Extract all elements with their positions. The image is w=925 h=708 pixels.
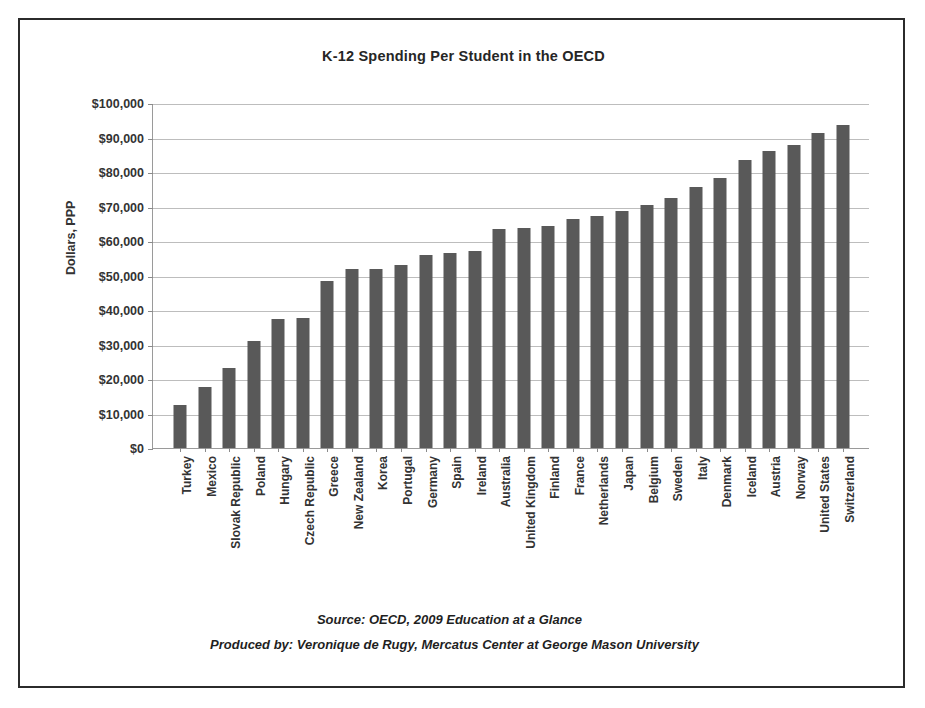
- x-axis-tick: [548, 448, 549, 452]
- x-axis-tick: [597, 448, 598, 452]
- x-axis-tick: [573, 448, 574, 452]
- bar-group: Turkey: [168, 104, 193, 448]
- bar-group: Portugal: [389, 104, 414, 448]
- x-axis-tick-label: Switzerland: [843, 456, 857, 523]
- bar: [419, 255, 432, 448]
- x-axis-tick-label: Korea: [376, 456, 390, 490]
- x-axis-tick-label: Slovak Republic: [229, 456, 243, 549]
- bar: [296, 318, 309, 448]
- bar: [665, 198, 678, 448]
- bar-group: Germany: [413, 104, 438, 448]
- x-axis-tick-label: Turkey: [180, 456, 194, 494]
- bar: [223, 368, 236, 448]
- x-axis-tick-label: Germany: [426, 456, 440, 508]
- x-axis-tick-label: Japan: [622, 456, 636, 491]
- bar-group: Denmark: [708, 104, 733, 448]
- x-axis-tick: [843, 448, 844, 452]
- bar: [836, 125, 849, 448]
- x-axis-tick-label: Czech Republic: [303, 456, 317, 545]
- x-axis-tick-label: Sweden: [671, 456, 685, 501]
- x-axis-tick: [696, 448, 697, 452]
- bar: [738, 160, 751, 448]
- x-axis-tick: [720, 448, 721, 452]
- bar: [542, 226, 555, 448]
- bar-group: Netherlands: [585, 104, 610, 448]
- bar: [370, 269, 383, 448]
- bar: [714, 178, 727, 448]
- x-axis-tick: [647, 448, 648, 452]
- x-axis-tick: [426, 448, 427, 452]
- produced-by-note: Produced by: Veronique de Rugy, Mercatus…: [20, 637, 907, 652]
- x-axis-tick-label: Poland: [254, 456, 268, 496]
- bar-group: Slovak Republic: [217, 104, 242, 448]
- y-axis-tick-label: $50,000: [99, 270, 144, 284]
- bar-group: Ireland: [462, 104, 487, 448]
- bar: [787, 145, 800, 448]
- bar: [198, 387, 211, 448]
- x-axis-tick: [450, 448, 451, 452]
- bar-group: Finland: [536, 104, 561, 448]
- bar-group: United States: [806, 104, 831, 448]
- x-axis-tick-label: Italy: [696, 456, 710, 480]
- bar: [615, 211, 628, 448]
- bar: [247, 341, 260, 448]
- x-axis-tick: [327, 448, 328, 452]
- bar-group: Sweden: [659, 104, 684, 448]
- bar: [468, 251, 481, 448]
- bar-group: Greece: [315, 104, 340, 448]
- x-axis-tick: [205, 448, 206, 452]
- x-axis-tick-label: Norway: [794, 456, 808, 499]
- bar-group: Australia: [487, 104, 512, 448]
- bar-group: Poland: [241, 104, 266, 448]
- bar-group: Spain: [438, 104, 463, 448]
- x-axis-tick: [376, 448, 377, 452]
- y-axis-tick-label: $90,000: [99, 132, 144, 146]
- x-axis-tick-label: Mexico: [205, 456, 219, 497]
- x-axis-tick: [745, 448, 746, 452]
- x-axis-tick: [278, 448, 279, 452]
- y-axis-tick-label: $40,000: [99, 304, 144, 318]
- x-axis-tick-label: New Zealand: [352, 456, 366, 529]
- x-axis-tick-label: United States: [818, 456, 832, 533]
- bar: [173, 405, 186, 448]
- bar-group: France: [561, 104, 586, 448]
- x-axis-tick: [769, 448, 770, 452]
- x-axis-tick-label: Netherlands: [597, 456, 611, 525]
- bar: [763, 151, 776, 448]
- plot-area: $100,000$90,000$80,000$70,000$60,000$50,…: [152, 104, 869, 449]
- x-axis-tick-label: Finland: [548, 456, 562, 499]
- x-axis-tick-label: France: [573, 456, 587, 495]
- chart-title: K-12 Spending Per Student in the OECD: [20, 48, 907, 64]
- y-axis-tick-label: $10,000: [99, 408, 144, 422]
- bar: [272, 319, 285, 448]
- bar-group: Italy: [683, 104, 708, 448]
- y-axis-tick-label: $60,000: [99, 235, 144, 249]
- x-axis-tick: [499, 448, 500, 452]
- x-axis-tick-label: Australia: [499, 456, 513, 507]
- bar: [345, 269, 358, 448]
- x-axis-tick-label: Iceland: [745, 456, 759, 497]
- y-axis-tick-label: $0: [130, 442, 144, 456]
- bar-group: Norway: [782, 104, 807, 448]
- x-axis-tick-label: Denmark: [720, 456, 734, 507]
- bar: [444, 253, 457, 448]
- bar-group: Belgium: [634, 104, 659, 448]
- bar: [812, 133, 825, 448]
- y-axis-tick-label: $30,000: [99, 339, 144, 353]
- x-axis-tick-label: Austria: [769, 456, 783, 497]
- bar: [566, 219, 579, 448]
- y-axis-tick-label: $70,000: [99, 201, 144, 215]
- figure-frame: K-12 Spending Per Student in the OECD Do…: [18, 18, 905, 688]
- x-axis-tick-label: Greece: [327, 456, 341, 497]
- x-axis-tick: [818, 448, 819, 452]
- x-axis-tick: [794, 448, 795, 452]
- bar-group: Austria: [757, 104, 782, 448]
- bar-group: Iceland: [732, 104, 757, 448]
- bar-group: Czech Republic: [291, 104, 316, 448]
- x-axis-tick: [303, 448, 304, 452]
- bar: [321, 281, 334, 448]
- bar-group: Hungary: [266, 104, 291, 448]
- x-axis-tick: [622, 448, 623, 452]
- x-axis-tick-label: Hungary: [278, 456, 292, 505]
- x-axis-tick: [229, 448, 230, 452]
